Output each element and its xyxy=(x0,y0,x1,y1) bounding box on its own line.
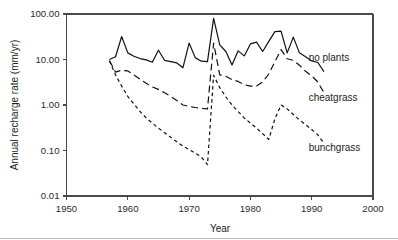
series-line-cheatgrass xyxy=(109,43,324,109)
y-axis-ticks: 0.010.101.0010.00100.00 xyxy=(30,8,66,201)
y-tick-label: 10.00 xyxy=(35,54,59,65)
figure-container: 0.010.101.0010.00100.00 1950196019701980… xyxy=(0,0,398,240)
data-series-group xyxy=(109,18,324,164)
series-inline-labels: no plantscheatgrassbunchgrass xyxy=(309,52,361,153)
x-tick-label: 1960 xyxy=(117,203,138,214)
series-line-bunchgrass xyxy=(109,61,324,165)
y-axis-title: Annual recharge rate (mm/yr) xyxy=(9,40,20,171)
x-tick-label: 1950 xyxy=(56,203,77,214)
y-tick-label: 0.10 xyxy=(41,145,60,156)
series-label-cheatgrass: cheatgrass xyxy=(309,92,358,103)
y-tick-label: 100.00 xyxy=(30,8,59,19)
plot-axes xyxy=(67,14,374,196)
x-axis-ticks: 195019601970198019902000 xyxy=(56,196,384,214)
series-label-no-plants: no plants xyxy=(309,52,350,63)
y-tick-label: 1.00 xyxy=(41,99,60,110)
series-line-no-plants xyxy=(109,18,324,71)
y-tick-label: 0.01 xyxy=(41,190,60,201)
series-label-bunchgrass: bunchgrass xyxy=(309,142,361,153)
x-axis-title: Year xyxy=(210,223,231,234)
x-tick-label: 1970 xyxy=(178,203,199,214)
x-tick-label: 1980 xyxy=(240,203,261,214)
x-tick-label: 2000 xyxy=(362,203,383,214)
x-tick-label: 1990 xyxy=(301,203,322,214)
recharge-rate-line-chart: 0.010.101.0010.00100.00 1950196019701980… xyxy=(0,0,398,240)
